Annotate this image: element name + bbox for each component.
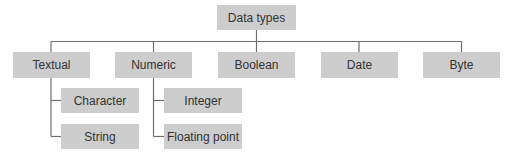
node-character: Character (61, 88, 139, 113)
node-textual: Textual (13, 52, 90, 78)
node-byte: Byte (423, 52, 500, 78)
node-integer: Integer (164, 88, 242, 113)
node-boolean: Boolean (218, 52, 295, 78)
node-floating-point: Floating point (164, 124, 242, 149)
node-string: String (61, 124, 139, 149)
node-date: Date (321, 52, 398, 78)
node-numeric: Numeric (115, 52, 192, 78)
node-data-types: Data types (217, 5, 296, 30)
